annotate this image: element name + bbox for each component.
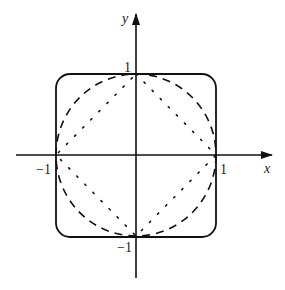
tick-x-pos: 1 (220, 162, 227, 177)
x-axis-label: x (263, 161, 271, 176)
tick-y-neg: −1 (117, 240, 132, 255)
y-axis-label: y (120, 11, 129, 26)
tick-y-pos: 1 (124, 60, 131, 75)
unit-ball-diagram: y x 1 −1 1 −1 (0, 0, 285, 290)
tick-x-neg: −1 (36, 162, 51, 177)
